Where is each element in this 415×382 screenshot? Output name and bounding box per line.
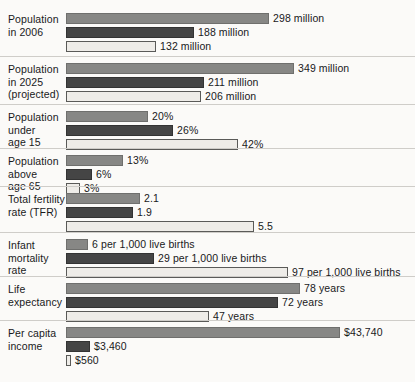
bar-stack: 2.11.95.5	[66, 192, 415, 234]
bar-value-label: 26%	[177, 125, 198, 136]
bar-series-2	[66, 125, 173, 136]
bar-row: 206 million	[66, 90, 415, 103]
bar-series-3	[66, 91, 201, 102]
bar-row: 26%	[66, 124, 415, 137]
category-label-line: in 2006	[8, 26, 66, 39]
category-label-line: rate (TFR)	[8, 206, 66, 219]
group-separator	[0, 186, 415, 187]
category-label: Infantmortalityrate	[0, 238, 66, 277]
bar-value-label: 6 per 1,000 live births	[92, 239, 195, 250]
bar-stack: 6 per 1,000 live births29 per 1,000 live…	[66, 238, 415, 280]
bar-row: 29 per 1,000 live births	[66, 252, 415, 265]
category-label-line: under	[8, 124, 66, 137]
bar-row: 349 million	[66, 62, 415, 75]
bar-series-1	[66, 283, 300, 294]
bar-row: 97 per 1,000 live births	[66, 266, 415, 279]
category-label-line: Population	[8, 155, 66, 168]
bar-series-2	[66, 169, 92, 180]
chart-group: Populationin 2006298 million188 million1…	[0, 12, 415, 54]
group-separator	[0, 148, 415, 149]
chart-group: Total fertilityrate (TFR)2.11.95.5	[0, 192, 415, 234]
bar-row: 78 years	[66, 282, 415, 295]
bar-row: $560	[66, 354, 415, 367]
category-label-line: Per capita	[8, 327, 66, 340]
bar-row: 20%	[66, 110, 415, 123]
group-separator	[0, 104, 415, 105]
bar-series-1	[66, 63, 294, 74]
bar-series-1	[66, 327, 340, 338]
bar-value-label: 29 per 1,000 live births	[158, 253, 267, 264]
bar-value-label: 6%	[96, 169, 111, 180]
chart-group: Per capitaincome$43,740$3,460$560	[0, 326, 415, 368]
category-label-line: Population	[8, 13, 66, 26]
category-label-line: Total fertility	[8, 193, 66, 206]
bar-series-3	[66, 41, 156, 52]
bar-row: 2.1	[66, 192, 415, 205]
category-label-line: income	[8, 340, 66, 353]
category-label: Per capitaincome	[0, 326, 66, 352]
comparison-bar-chart: Populationin 2006298 million188 million1…	[0, 0, 415, 382]
bar-value-label: 2.1	[144, 193, 159, 204]
bar-series-1	[66, 13, 269, 24]
bar-stack: $43,740$3,460$560	[66, 326, 415, 368]
bar-series-2	[66, 297, 278, 308]
bar-series-2	[66, 341, 90, 352]
bar-series-1	[66, 111, 148, 122]
category-label-line: mortality	[8, 252, 66, 265]
category-label-line: Population	[8, 63, 66, 76]
group-separator	[0, 320, 415, 321]
category-label: Total fertilityrate (TFR)	[0, 192, 66, 218]
category-label-line: Infant	[8, 239, 66, 252]
bar-value-label: $560	[75, 355, 99, 366]
group-separator	[0, 232, 415, 233]
bar-value-label: 1.9	[137, 207, 152, 218]
category-label-line: Life	[8, 283, 66, 296]
bar-series-3	[66, 355, 71, 366]
bar-value-label: 298 million	[273, 13, 324, 24]
chart-group: Populationin 2025(projected)349 million2…	[0, 62, 415, 104]
bar-series-1	[66, 239, 88, 250]
bar-row: $3,460	[66, 340, 415, 353]
bar-row: 6 per 1,000 live births	[66, 238, 415, 251]
bar-series-1	[66, 193, 140, 204]
bar-value-label: 349 million	[298, 63, 349, 74]
chart-group: Lifeexpectancy78 years72 years47 years	[0, 282, 415, 324]
bar-row: 72 years	[66, 296, 415, 309]
bar-row: 188 million	[66, 26, 415, 39]
chart-group: Populationunderage 1520%26%42%	[0, 110, 415, 152]
category-label: Populationunderage 15	[0, 110, 66, 149]
bar-value-label: 72 years	[282, 297, 323, 308]
category-label: Lifeexpectancy	[0, 282, 66, 308]
bar-row: 6%	[66, 168, 415, 181]
bar-row: 13%	[66, 154, 415, 167]
bar-stack: 349 million211 million206 million	[66, 62, 415, 104]
bar-series-2	[66, 77, 204, 88]
bar-value-label: 5.5	[258, 221, 273, 232]
bar-series-1	[66, 155, 123, 166]
category-label-line: age 15	[8, 136, 66, 149]
bar-series-3	[66, 221, 254, 232]
bar-row: 47 years	[66, 310, 415, 323]
category-label-line: rate	[8, 264, 66, 277]
bar-value-label: $43,740	[344, 327, 383, 338]
category-label: Populationin 2006	[0, 12, 66, 38]
bar-row: 42%	[66, 138, 415, 151]
bar-row: 211 million	[66, 76, 415, 89]
bar-row: 1.9	[66, 206, 415, 219]
chart-group: Infantmortalityrate6 per 1,000 live birt…	[0, 238, 415, 280]
category-label-line: Population	[8, 111, 66, 124]
category-label-line: above	[8, 168, 66, 181]
bar-stack: 298 million188 million132 million	[66, 12, 415, 54]
bar-series-2	[66, 207, 133, 218]
category-label-line: in 2025	[8, 76, 66, 89]
bar-value-label: 78 years	[304, 283, 345, 294]
bar-stack: 20%26%42%	[66, 110, 415, 152]
category-label-line: (projected)	[8, 88, 66, 101]
bar-value-label: 13%	[127, 155, 148, 166]
bar-row: 132 million	[66, 40, 415, 53]
bar-series-2	[66, 253, 154, 264]
bar-stack: 13%6%3%	[66, 154, 415, 196]
bar-value-label: 20%	[152, 111, 173, 122]
bar-value-label: 206 million	[205, 91, 256, 102]
bar-row: 298 million	[66, 12, 415, 25]
